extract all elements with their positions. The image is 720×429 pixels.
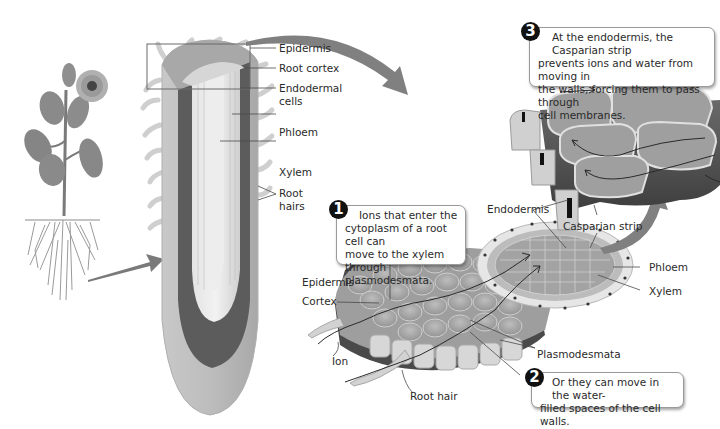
root-system [25,220,100,300]
callout-3-line-2: prevents ions and water from moving in [538,57,708,83]
arrow-plant-to-root [88,254,164,282]
label-root-cortex: Root cortex [279,62,339,75]
label-xylem-root: Xylem [279,166,312,179]
callout-3-line-3: the walls, forcing them to pass through [538,83,708,109]
callout-3-line-1: At the endodermis, the Casparian strip [538,31,708,57]
callout-2-line-2: filled spaces of the cell walls. [540,402,677,428]
callout-1-line-3: move to the xylem through [345,248,459,274]
label-ion: Ion [332,355,348,368]
label-root-hairs-line1: Root [279,187,303,200]
callout-1-line-4: plasmodesmata. [345,274,459,287]
callout-2-cell-wall-pathway: Or they can move in the water- filled sp… [531,372,684,408]
label-endodermis: Endodermis [487,203,549,216]
step-2-badge: 2 [525,368,544,387]
callout-1-line-2: cytoplasm of a root cell can [345,222,459,248]
step-1-badge: 1 [329,200,348,219]
sunflower-plant-illustration [19,63,108,300]
vascular-cylinder [477,220,633,309]
callout-3-line-4: cell membranes. [538,109,708,122]
callout-2-line-1: Or they can move in the water- [540,376,677,402]
step-3-badge: 3 [521,22,540,41]
callout-3-casparian-strip: At the endodermis, the Casparian strip p… [529,27,715,87]
callout-1-line-1: Ions that enter the [345,209,459,222]
label-cortex: Cortex [302,295,337,308]
sunflower-head [76,70,108,102]
label-plasmodesmata: Plasmodesmata [537,348,621,361]
root-ion-transport-diagram: Epidermis Root cortex Endodermal cells P… [0,0,720,429]
label-casparian-strip: Casparian strip [563,220,642,233]
label-xylem-cross: Xylem [649,285,682,298]
label-root-hair: Root hair [410,390,457,403]
callout-1-plasmodesmata-pathway: Ions that enter the cytoplasm of a root … [336,205,466,265]
label-phloem-cross: Phloem [649,261,688,274]
label-endodermal-cells-line1: Endodermal [279,82,342,95]
label-endodermal-cells-line2: cells [279,95,303,108]
label-root-hairs-line2: hairs [279,200,305,213]
root-tip-illustration [143,39,276,415]
label-epidermis-root: Epidermis [279,42,331,55]
label-phloem-root: Phloem [279,126,318,139]
